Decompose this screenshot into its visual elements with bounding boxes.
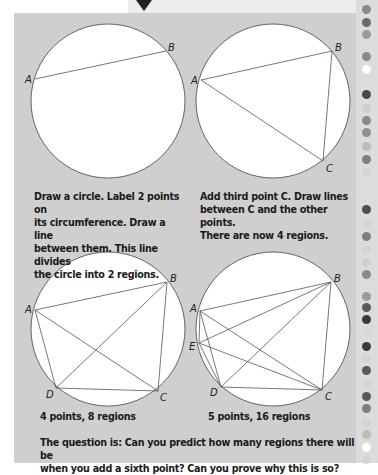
rail-dot-icon	[362, 18, 371, 27]
circle-figure-fig2: ABC	[190, 24, 350, 178]
caption-line: There are now 4 regions.	[200, 229, 360, 242]
rail-dot-icon	[362, 270, 371, 279]
rail-dot-icon	[362, 205, 371, 214]
rail-dot-icon	[362, 430, 371, 439]
point-label-A: A	[189, 303, 197, 314]
rail-dot-icon	[362, 418, 371, 427]
question-text: The question is: Can you predict how man…	[40, 436, 360, 475]
rail-dot-icon	[362, 232, 371, 241]
rail-dot-icon	[362, 366, 371, 375]
caption-fig4: 5 points, 16 regions	[208, 410, 310, 423]
rail-dot-icon	[362, 128, 371, 137]
rail-dot-icon	[362, 30, 371, 39]
rail-dot-icon	[362, 90, 371, 99]
point-label-C: C	[160, 392, 167, 403]
caption-line: between C and the other points.	[200, 203, 360, 229]
circle-figure-fig4: ABCDE	[189, 252, 350, 406]
point-label-A: A	[24, 74, 32, 85]
caption-line: its circumference. Draw a line	[34, 216, 184, 242]
caption-fig1: Draw a circle. Label 2 points on its cir…	[34, 190, 184, 281]
caption-line: 5 points, 16 regions	[208, 410, 310, 423]
point-label-B: B	[335, 42, 342, 53]
caption-line: the circle into 2 regions.	[34, 268, 184, 281]
caption-fig2: Add third point C. Draw lines between C …	[200, 190, 360, 242]
rail-dot-icon	[362, 245, 371, 254]
rail-dot-icon	[362, 342, 371, 351]
point-label-C: C	[326, 163, 333, 174]
point-label-C: C	[325, 391, 332, 402]
circle-shape	[196, 24, 350, 178]
rail-dot-icon	[362, 392, 371, 401]
rail-dot-icon	[362, 5, 371, 14]
caption-line: 4 points, 8 regions	[40, 410, 136, 423]
rail-dot-icon	[362, 303, 371, 312]
rail-dot-icon	[362, 354, 371, 363]
question-line: when you add a sixth point? Can you prov…	[40, 462, 360, 475]
rail-dot-icon	[362, 116, 371, 125]
caption-line: between them. This line divides	[34, 242, 184, 268]
rail-dot-icon	[362, 104, 371, 113]
rail-dot-icon	[362, 65, 371, 74]
point-label-A: A	[24, 304, 32, 315]
question-line: The question is: Can you predict how man…	[40, 436, 360, 462]
rail-dot-icon	[362, 292, 371, 301]
rail-dot-icon	[362, 379, 371, 388]
rail-dot-icon	[362, 315, 371, 324]
circle-figure-fig1: AB	[24, 24, 185, 178]
caption-line: Draw a circle. Label 2 points on	[34, 190, 184, 216]
point-label-E: E	[189, 341, 196, 352]
rail-dot-icon	[362, 142, 371, 151]
circle-shape	[31, 24, 185, 178]
rail-dot-icon	[362, 455, 371, 464]
rail-dot-icon	[362, 168, 371, 177]
point-label-B: B	[334, 273, 341, 284]
point-label-D: D	[46, 389, 54, 400]
rail-dot-icon	[362, 155, 371, 164]
rail-dot-icon	[362, 258, 371, 267]
rail-dot-icon	[362, 328, 371, 337]
caption-line: Add third point C. Draw lines	[200, 190, 360, 203]
rail-dot-icon	[362, 219, 371, 228]
rail-dot-icon	[362, 443, 371, 452]
caption-fig3: 4 points, 8 regions	[40, 410, 136, 423]
rail-dot-icon	[362, 404, 371, 413]
point-label-B: B	[168, 42, 175, 53]
point-label-A: A	[190, 75, 198, 86]
rail-dot-icon	[362, 52, 371, 61]
point-label-D: D	[210, 387, 218, 398]
